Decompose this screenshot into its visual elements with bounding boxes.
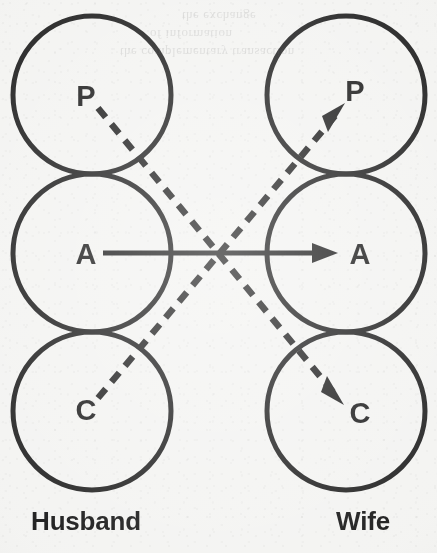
wife-child-circle[interactable] [267,332,425,490]
husband-adult-label: A [76,238,97,270]
transactional-analysis-diagram: P A C P A C [0,0,437,553]
husband-parent-label: P [76,80,95,112]
wife-child-label: C [350,397,371,429]
child-to-parent-arrowhead [322,103,345,132]
husband-name-label: Husband [31,506,141,536]
adult-to-adult-arrowhead [312,243,338,263]
figure-canvas: P A C P A C [0,0,437,553]
husband-child-label: C [76,394,97,426]
wife-parent-label: P [345,75,364,107]
parent-to-child-arrowhead [321,376,344,405]
wife-name-label: Wife [336,506,390,536]
wife-adult-label: A [350,238,371,270]
